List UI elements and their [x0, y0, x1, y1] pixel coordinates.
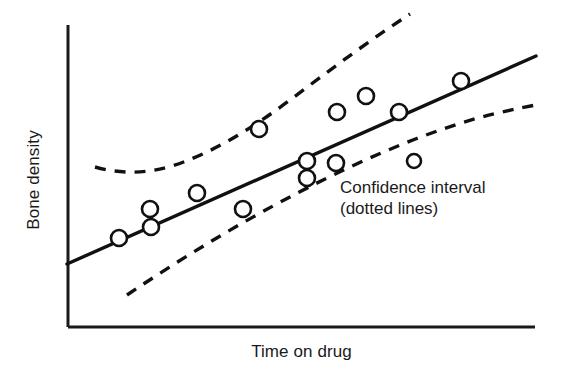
data-point [329, 104, 345, 120]
plot-canvas [0, 0, 574, 375]
confidence-interval-annotation: Confidence interval (dotted lines) [340, 177, 486, 219]
data-point [299, 153, 315, 169]
data-point [189, 185, 205, 201]
data-point [111, 230, 127, 246]
data-point [391, 104, 407, 120]
data-point [143, 219, 159, 235]
data-point [358, 88, 374, 104]
data-point [407, 154, 421, 168]
data-point [299, 170, 315, 186]
data-point [251, 121, 267, 137]
data-point [142, 201, 158, 217]
scatter-plot-figure: Bone density Time on drug Confidence int… [0, 0, 574, 375]
data-point [453, 73, 469, 89]
y-axis-title: Bone density [24, 75, 44, 285]
data-point [328, 155, 344, 171]
data-point [235, 201, 251, 217]
x-axis-title: Time on drug [68, 342, 535, 362]
